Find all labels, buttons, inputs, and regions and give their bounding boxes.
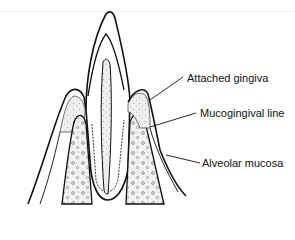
- label-mucogingival-line: Mucogingival line: [200, 107, 284, 119]
- leader-attached-gingiva: [150, 77, 183, 100]
- pulp: [101, 59, 111, 194]
- leader-alveolar-mucosa: [166, 155, 200, 163]
- leader-mucogingival-line: [150, 113, 196, 127]
- label-attached-gingiva: Attached gingiva: [187, 72, 268, 84]
- label-alveolar-mucosa: Alveolar mucosa: [202, 157, 283, 169]
